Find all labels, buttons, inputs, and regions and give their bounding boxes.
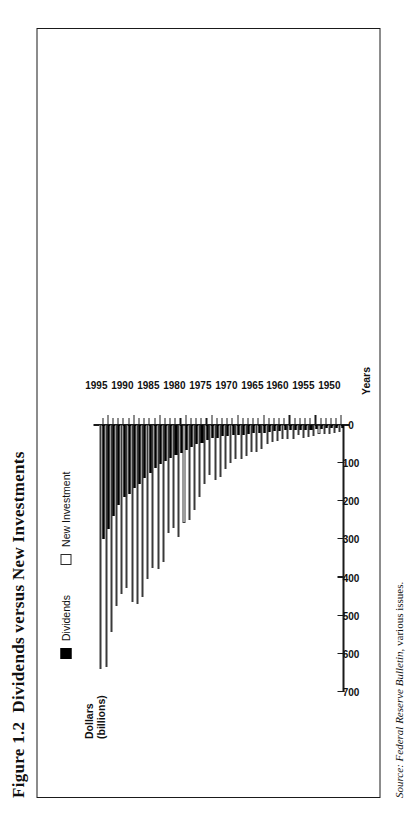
bar-dividends: [242, 425, 244, 435]
bar-new-investment: [214, 425, 216, 480]
category-tick-major: [133, 415, 134, 425]
bar-dividends: [263, 425, 265, 433]
category-tick-major: [340, 415, 341, 425]
bar-dividends: [102, 425, 104, 539]
bar-new-investment: [219, 425, 221, 477]
category-tick-minor: [226, 418, 227, 425]
bar-new-investment: [317, 425, 319, 434]
legend-swatch-dividends-icon: [60, 648, 71, 659]
category-tick-minor: [304, 418, 305, 425]
bar-dividends: [289, 425, 291, 430]
category-tick-label: 1975: [188, 380, 210, 391]
bar-new-investment: [281, 425, 283, 439]
category-tick-label: 1970: [214, 380, 236, 391]
bar-dividends: [154, 425, 156, 468]
bar-new-investment: [136, 425, 138, 604]
value-tick-label: 300: [342, 534, 359, 545]
bar-dividends: [268, 425, 270, 432]
category-tick-minor: [242, 418, 243, 425]
category-tick-minor: [273, 418, 274, 425]
value-axis-title-line2: (billions): [94, 695, 106, 739]
bar-dividends: [164, 425, 166, 461]
category-tick-minor: [190, 418, 191, 425]
bar-dividends: [304, 425, 306, 430]
bar-new-investment: [255, 425, 257, 452]
category-tick-label: 1980: [162, 380, 184, 391]
bar-new-investment: [292, 425, 294, 439]
bar-dividends: [325, 425, 327, 428]
bar-dividends: [330, 425, 332, 428]
category-tick-minor: [174, 418, 175, 425]
bar-new-investment: [188, 425, 190, 520]
category-tick-major: [211, 415, 212, 425]
value-axis-title: Dollars (billions): [82, 695, 107, 739]
bar-dividends: [211, 425, 213, 438]
bar-dividends: [185, 425, 187, 450]
category-tick-minor: [268, 418, 269, 425]
category-tick-minor: [283, 418, 284, 425]
bar-dividends: [180, 425, 182, 453]
category-tick-major: [288, 415, 289, 425]
category-tick-minor: [309, 418, 310, 425]
bar-dividends: [299, 425, 301, 430]
bar-new-investment: [203, 425, 205, 484]
category-tick-minor: [200, 418, 201, 425]
bar-new-investment: [240, 425, 242, 459]
category-tick-minor: [330, 418, 331, 425]
bar-new-investment: [271, 425, 273, 442]
legend-label-new-investment: New Investment: [59, 472, 71, 547]
page-title: Figure 1.2Dividends versus New Investmen…: [8, 451, 28, 798]
bar-new-investment: [307, 425, 309, 437]
bar-dividends: [133, 425, 135, 488]
bar-new-investment: [99, 425, 101, 669]
bar-dividends: [123, 425, 125, 497]
bar-new-investment: [266, 425, 268, 444]
category-tick-minor: [320, 418, 321, 425]
category-tick-minor: [278, 418, 279, 425]
bar-dividends: [128, 425, 130, 494]
value-tick-label: 500: [342, 610, 359, 621]
category-tick-minor: [102, 418, 103, 425]
category-tick-minor: [148, 418, 149, 425]
chart-legend: Dividends New Investment: [59, 472, 71, 659]
category-tick-label: 1950: [318, 380, 340, 391]
figure-number: Figure 1.2: [8, 722, 27, 798]
bar-dividends: [273, 425, 275, 431]
category-tick-label: 1995: [85, 380, 107, 391]
category-tick-label: 1985: [136, 380, 158, 391]
bar-dividends: [190, 425, 192, 448]
legend-label-dividends: Dividends: [59, 595, 71, 641]
bar-dividends: [216, 425, 218, 438]
bar-new-investment: [115, 425, 117, 606]
bar-dividends: [117, 425, 119, 505]
bar-new-investment: [286, 425, 288, 439]
category-tick-minor: [252, 418, 253, 425]
category-tick-minor: [299, 418, 300, 425]
bar-new-investment: [234, 425, 236, 459]
category-tick-minor: [221, 418, 222, 425]
bar-new-investment: [105, 425, 107, 667]
category-tick-minor: [257, 418, 258, 425]
bar-new-investment: [260, 425, 262, 449]
bar-new-investment: [125, 425, 127, 588]
category-tick-minor: [138, 418, 139, 425]
category-tick-major: [263, 415, 264, 425]
bar-dividends: [159, 425, 161, 464]
plot-area: 0100200300400500600700 19501955196019651…: [99, 425, 343, 692]
value-tick-label: 200: [342, 496, 359, 507]
category-tick-minor: [154, 418, 155, 425]
bar-new-investment: [208, 425, 210, 475]
bar-dividends: [309, 425, 311, 430]
bar-dividends: [335, 425, 337, 428]
legend-swatch-new-investment-icon: [60, 554, 71, 565]
category-tick-label: 1965: [240, 380, 262, 391]
bar-dividends: [221, 425, 223, 436]
legend-item-new-investment: New Investment: [59, 472, 71, 565]
category-tick-minor: [195, 418, 196, 425]
category-tick-minor: [143, 418, 144, 425]
category-tick-major: [185, 415, 186, 425]
bar-dividends: [174, 425, 176, 455]
category-tick-minor: [216, 418, 217, 425]
bar-dividends: [237, 425, 239, 435]
category-tick-major: [107, 415, 108, 425]
